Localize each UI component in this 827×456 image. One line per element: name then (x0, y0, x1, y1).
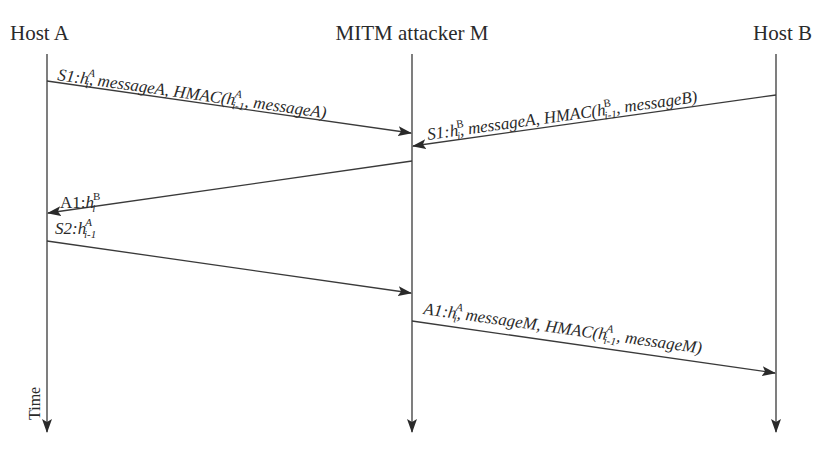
message-label-s1-a-to-m: S1:hAi, messageA, HMAC(hAi-1, messageA) (56, 62, 328, 124)
message-arrow-s2-a-to-m (47, 241, 411, 293)
time-axis-label: Time (26, 387, 43, 420)
sequence-diagram: Host A MITM attacker M Host B Time S1:hA… (0, 0, 827, 456)
message-label-s2-a-to-m: S2:hAi-1 (55, 216, 96, 240)
message-label-s1-b-to-m: S1:hBi, messageA, HMAC(hBi-1, messageB) (425, 84, 699, 146)
message-arrow-a1-m-to-a (48, 161, 412, 213)
actor-host-b: Host B (753, 21, 812, 45)
actor-mitm-attacker: MITM attacker M (336, 21, 489, 45)
actor-host-a: Host A (10, 21, 70, 45)
message-label-a1-m-to-a: A1:hBi (60, 190, 100, 214)
